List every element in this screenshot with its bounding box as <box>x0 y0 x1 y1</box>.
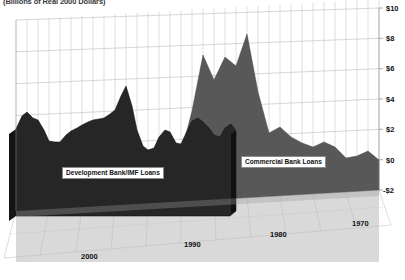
y-tick-0: $0 <box>386 156 394 165</box>
y-tick-6: $6 <box>386 64 394 73</box>
x-tick-2000: 2000 <box>81 252 98 261</box>
x-tick-1970: 1970 <box>352 219 369 228</box>
series-label-commercial-bank: Commercial Bank Loans <box>241 156 326 168</box>
y-tick-10: $10 <box>386 4 399 13</box>
x-tick-1990: 1990 <box>184 240 201 249</box>
y-tick-2: $2 <box>386 125 394 134</box>
series-label-development-bank-imf: Development Bank/IMF Loans <box>62 167 164 179</box>
x-tick-1980: 1980 <box>270 230 287 239</box>
y-tick-neg2: -$2 <box>383 186 394 195</box>
y-tick-8: $8 <box>386 34 394 43</box>
chart-canvas <box>0 0 405 280</box>
development-series-left-face <box>9 129 16 221</box>
chart-root: (Billions of Real 2000 Dollars) <box>0 0 405 280</box>
y-axis-ticks <box>379 8 383 190</box>
y-tick-4: $4 <box>386 95 394 104</box>
